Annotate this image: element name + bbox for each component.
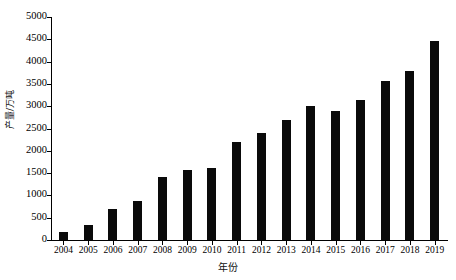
y-tick-label: 4500 bbox=[26, 32, 47, 43]
x-tick-label: 2008 bbox=[153, 245, 172, 255]
bar bbox=[306, 106, 315, 240]
x-axis-title: 年份 bbox=[0, 259, 456, 274]
bar bbox=[381, 81, 390, 240]
y-tick-label: 2500 bbox=[26, 122, 47, 133]
plot-area: 0500100015002000250030003500400045005000 bbox=[51, 17, 447, 240]
y-tick-label: 2000 bbox=[26, 144, 47, 155]
x-tick-label: 2019 bbox=[425, 245, 444, 255]
x-tick-label: 2012 bbox=[252, 245, 271, 255]
y-tick-label: 1500 bbox=[26, 166, 47, 177]
x-tick-label: 2006 bbox=[103, 245, 122, 255]
bar bbox=[133, 201, 142, 240]
bar bbox=[158, 177, 167, 240]
y-tick-mark bbox=[47, 17, 51, 18]
x-tick-label: 2009 bbox=[178, 245, 197, 255]
bar bbox=[282, 120, 291, 240]
y-tick-mark bbox=[47, 129, 51, 130]
y-tick-mark bbox=[47, 173, 51, 174]
x-axis-labels: 2004200520062007200820092010201120122013… bbox=[51, 241, 448, 259]
bar bbox=[356, 100, 365, 240]
bar bbox=[59, 232, 68, 240]
x-tick-label: 2011 bbox=[227, 245, 246, 255]
x-tick-label: 2005 bbox=[79, 245, 98, 255]
y-tick-mark bbox=[47, 62, 51, 63]
bar bbox=[430, 41, 439, 240]
y-tick-mark bbox=[47, 218, 51, 219]
y-tick-mark bbox=[47, 195, 51, 196]
x-tick-label: 2017 bbox=[376, 245, 395, 255]
y-tick-label: 3500 bbox=[26, 77, 47, 88]
bar bbox=[257, 133, 266, 240]
y-tick-mark bbox=[47, 151, 51, 152]
y-tick-label: 5000 bbox=[26, 10, 47, 21]
x-tick-label: 2007 bbox=[128, 245, 147, 255]
x-tick-label: 2013 bbox=[277, 245, 296, 255]
x-tick-label: 2004 bbox=[54, 245, 73, 255]
bar-chart: 产量/万吨 0500100015002000250030003500400045… bbox=[0, 0, 456, 280]
y-axis-title: 产量/万吨 bbox=[3, 80, 16, 140]
x-tick-label: 2015 bbox=[326, 245, 345, 255]
y-tick-label: 4000 bbox=[26, 55, 47, 66]
y-tick-mark bbox=[47, 39, 51, 40]
bar bbox=[84, 225, 93, 240]
x-tick-label: 2010 bbox=[202, 245, 221, 255]
y-tick-label: 3000 bbox=[26, 99, 47, 110]
bar bbox=[183, 170, 192, 240]
y-tick-label: 500 bbox=[31, 211, 47, 222]
bar bbox=[331, 111, 340, 240]
y-tick-label: 0 bbox=[42, 233, 47, 244]
x-tick-label: 2016 bbox=[351, 245, 370, 255]
bar bbox=[207, 168, 216, 240]
x-tick-label: 2014 bbox=[301, 245, 320, 255]
bar bbox=[232, 142, 241, 240]
y-tick-label: 1000 bbox=[26, 188, 47, 199]
bar bbox=[108, 209, 117, 240]
x-tick-label: 2018 bbox=[400, 245, 419, 255]
y-tick-mark bbox=[47, 106, 51, 107]
bar bbox=[405, 71, 414, 240]
y-tick-mark bbox=[47, 84, 51, 85]
